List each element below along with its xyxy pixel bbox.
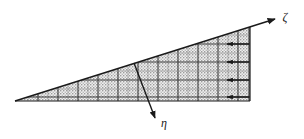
wedge-diagram: ζ η — [0, 0, 304, 139]
zeta-axis-label: ζ — [283, 10, 289, 24]
diagram-canvas: ζ η — [0, 0, 304, 139]
eta-axis-label: η — [161, 116, 167, 130]
